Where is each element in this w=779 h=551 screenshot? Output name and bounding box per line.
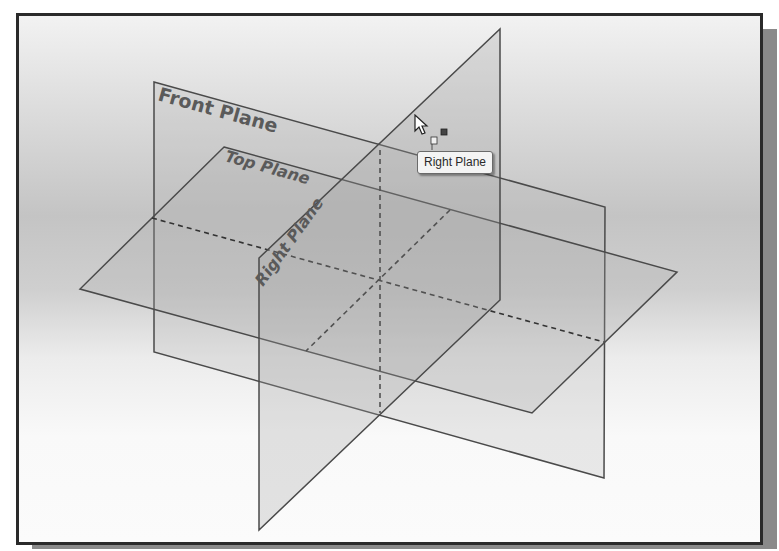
graphics-viewport[interactable]: Front Plane Top Plane Right Plane — [16, 13, 763, 545]
plane-select-icon — [441, 129, 447, 135]
right-plane[interactable] — [259, 29, 500, 530]
plane-scene: Front Plane Top Plane Right Plane — [19, 16, 760, 542]
arrow-cursor-icon — [414, 114, 454, 154]
document-icon — [431, 137, 437, 144]
hover-tooltip: Right Plane — [417, 151, 493, 174]
